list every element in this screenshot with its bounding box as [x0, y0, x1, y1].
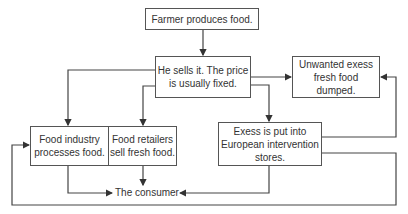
unwanted-label-line1: Unwanted exess [293, 58, 379, 71]
farmer-box: Farmer produces food. [145, 8, 259, 30]
intervention-label-line3: stores. [221, 151, 319, 164]
intervention-label-line1: Exess is put into [221, 125, 319, 138]
retailers-box: Food retailers sell fresh food. [108, 126, 177, 166]
retailers-label-line2: sell fresh food. [110, 146, 175, 159]
sells-label-line1: He sells it. The price [158, 64, 248, 77]
consumer-label: The consumer [115, 187, 179, 198]
industry-label-line2: processes food. [34, 146, 105, 159]
unwanted-label-line2: fresh food dumped. [293, 71, 379, 97]
sells-label-line2: is usually fixed. [158, 77, 248, 90]
industry-label-line1: Food industry [34, 133, 105, 146]
intervention-box: Exess is put into European intervention … [218, 122, 322, 166]
connector-lines [0, 0, 408, 214]
industry-box: Food industry processes food. [30, 126, 109, 166]
sells-box: He sells it. The price is usually fixed. [155, 56, 251, 98]
farmer-label: Farmer produces food. [151, 13, 252, 26]
unwanted-box: Unwanted exess fresh food dumped. [292, 56, 380, 98]
intervention-label-line2: European intervention [221, 138, 319, 151]
retailers-label-line1: Food retailers [110, 133, 175, 146]
